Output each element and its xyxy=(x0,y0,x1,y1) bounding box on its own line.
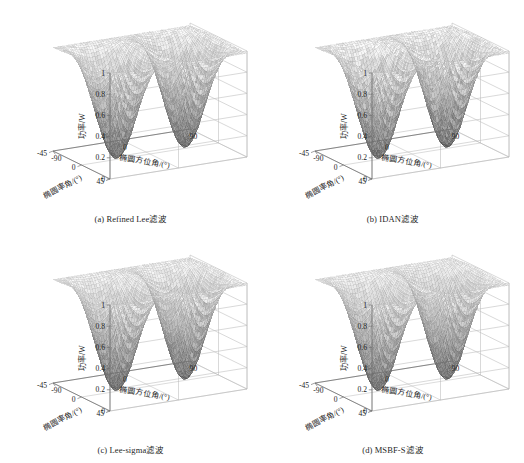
z-tick-label: 1 xyxy=(363,69,367,78)
panel-d: 00.20.40.60.81功率/W450-45椭圆率角/(°)-90090椭圆… xyxy=(262,232,524,463)
x-tick xyxy=(49,151,53,153)
x-tick-label: 45 xyxy=(358,409,366,418)
x-axis-title: 椭圆率角/(°) xyxy=(41,404,84,432)
z-axis-title: 功率/W xyxy=(77,345,87,371)
panel-a: 00.20.40.60.81功率/W450-45椭圆率角/(°)-90090椭圆… xyxy=(0,0,262,232)
z-tick-label: 0.8 xyxy=(96,322,106,331)
z-tick-label: 0.2 xyxy=(358,153,368,162)
z-tick-label: 1 xyxy=(101,69,105,78)
y-tick-label: -90 xyxy=(51,386,61,395)
y-tick-label: -90 xyxy=(313,386,323,395)
x-tick-label: 0 xyxy=(334,163,338,172)
x-tick-label: 45 xyxy=(96,409,104,418)
panel-d-caption: (d) MSBF-S滤波 xyxy=(262,443,524,455)
x-tick-label: -45 xyxy=(299,149,309,158)
x-tick xyxy=(311,383,315,385)
panel-b: 00.20.40.60.81功率/W450-45椭圆率角/(°)-90090椭圆… xyxy=(262,0,524,232)
z-tick-label: 0.2 xyxy=(96,385,106,394)
y-tick-label: 90 xyxy=(452,364,460,373)
y-tick-label: -90 xyxy=(313,154,323,163)
z-tick-label: 0.6 xyxy=(358,343,368,352)
x-tick-label: 0 xyxy=(72,395,76,404)
figure-grid: 00.20.40.60.81功率/W450-45椭圆率角/(°)-90090椭圆… xyxy=(0,0,524,463)
z-tick-label: 0.2 xyxy=(358,385,368,394)
panel-c-caption: (c) Lee-sigma滤波 xyxy=(0,443,262,455)
x-tick xyxy=(340,397,344,399)
x-tick-label: -45 xyxy=(299,381,309,390)
surface-plot-c-svg: 00.20.40.60.81功率/W450-45椭圆率角/(°)-90090椭圆… xyxy=(0,232,262,437)
z-tick-label: 0.8 xyxy=(96,90,106,99)
z-tick-label: 0.8 xyxy=(358,322,368,331)
y-tick-label: -90 xyxy=(51,154,61,163)
x-tick-label: 0 xyxy=(334,395,338,404)
plot-d: 00.20.40.60.81功率/W450-45椭圆率角/(°)-90090椭圆… xyxy=(262,232,524,437)
y-tick-label: 0 xyxy=(123,143,127,152)
z-axis-title: 功率/W xyxy=(339,113,349,139)
z-tick-label: 1 xyxy=(363,301,367,310)
plot-c: 00.20.40.60.81功率/W450-45椭圆率角/(°)-90090椭圆… xyxy=(0,232,262,437)
y-tick-label: 90 xyxy=(190,364,198,373)
y-tick-label: 0 xyxy=(123,375,127,384)
plot-b: 00.20.40.60.81功率/W450-45椭圆率角/(°)-90090椭圆… xyxy=(262,0,524,205)
z-tick-label: 0.4 xyxy=(358,364,368,373)
x-tick-label: 45 xyxy=(358,177,366,186)
surface-plot-b-svg: 00.20.40.60.81功率/W450-45椭圆率角/(°)-90090椭圆… xyxy=(262,0,524,205)
z-tick-label: 0.6 xyxy=(358,111,368,120)
surface-plot-d-svg: 00.20.40.60.81功率/W450-45椭圆率角/(°)-90090椭圆… xyxy=(262,232,524,437)
x-tick xyxy=(340,165,344,167)
x-axis-title: 椭圆率角/(°) xyxy=(303,172,346,200)
panel-a-caption: (a) Refined Lee滤波 xyxy=(0,212,262,224)
y-tick-label: 0 xyxy=(385,375,389,384)
x-tick-label: -45 xyxy=(37,381,47,390)
z-tick-label: 0.8 xyxy=(358,90,368,99)
x-tick xyxy=(78,397,82,399)
z-axis-title: 功率/W xyxy=(77,113,87,139)
z-tick-label: 0.6 xyxy=(96,111,106,120)
x-tick-label: -45 xyxy=(37,149,47,158)
x-tick xyxy=(78,165,82,167)
x-tick-label: 45 xyxy=(96,177,104,186)
z-tick-label: 0.2 xyxy=(96,153,106,162)
y-tick-label: 90 xyxy=(452,132,460,141)
x-tick xyxy=(311,151,315,153)
x-axis-title: 椭圆率角/(°) xyxy=(303,404,346,432)
y-tick-label: 90 xyxy=(190,132,198,141)
x-axis-title: 椭圆率角/(°) xyxy=(41,172,84,200)
x-tick-label: 0 xyxy=(72,163,76,172)
panel-b-caption: (b) IDAN滤波 xyxy=(262,212,524,224)
z-tick-label: 0.6 xyxy=(96,343,106,352)
z-tick-label: 1 xyxy=(101,301,105,310)
z-tick-label: 0.4 xyxy=(358,132,368,141)
z-tick-label: 0.4 xyxy=(96,132,106,141)
z-tick-label: 0.4 xyxy=(96,364,106,373)
panel-c: 00.20.40.60.81功率/W450-45椭圆率角/(°)-90090椭圆… xyxy=(0,232,262,463)
y-tick-label: 0 xyxy=(385,143,389,152)
plot-a: 00.20.40.60.81功率/W450-45椭圆率角/(°)-90090椭圆… xyxy=(0,0,262,205)
x-tick xyxy=(49,383,53,385)
z-axis-title: 功率/W xyxy=(339,345,349,371)
surface-plot-a-svg: 00.20.40.60.81功率/W450-45椭圆率角/(°)-90090椭圆… xyxy=(0,0,262,205)
